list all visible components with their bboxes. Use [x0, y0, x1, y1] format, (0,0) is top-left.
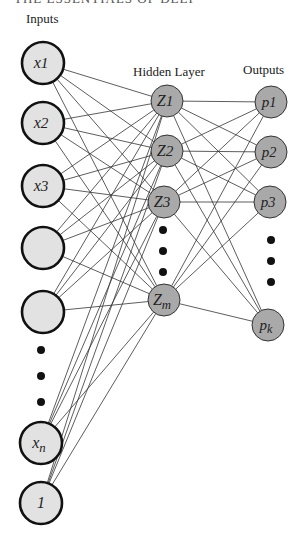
connection-edge: [64, 104, 152, 120]
hidden-node-Zm: Zm: [148, 284, 180, 316]
hidden-node-Z1: Z1: [151, 85, 183, 117]
connection-edge: [55, 312, 154, 427]
connection-edge: [60, 75, 154, 142]
ellipsis-dot-icon: [37, 372, 45, 380]
connection-edge: [59, 213, 153, 298]
node-label: x1: [33, 54, 49, 71]
connection-edge: [63, 208, 149, 241]
connection-edge: [49, 166, 160, 424]
ellipsis-dot-icon: [267, 278, 275, 286]
node-label: Z1: [157, 92, 174, 109]
ellipsis-dot-icon: [37, 398, 45, 406]
node-label: p2: [261, 144, 277, 160]
connection-edges: [47, 69, 263, 485]
output-node-p3: p3: [254, 186, 286, 218]
input-node: [22, 291, 64, 333]
ellipsis-dot-icon: [159, 247, 167, 255]
node-label: 1: [37, 494, 45, 511]
ellipsis-dot-icon: [159, 268, 167, 276]
connection-edge: [64, 302, 148, 310]
ellipsis-dot-icon: [37, 346, 45, 354]
network-svg: x1x2x3xn1Z1Z2Z3Zmp1p2p3pk: [0, 0, 301, 533]
input-node-1: 1: [20, 482, 62, 524]
node-label: x2: [33, 114, 49, 131]
hidden-node-Z2: Z2: [151, 135, 183, 167]
node-label: p3: [260, 194, 276, 210]
ellipsis-dot-icon: [267, 257, 275, 265]
ellipsis-dot-icon: [159, 226, 167, 234]
connection-edge: [174, 214, 257, 313]
node-label: Z3: [154, 193, 171, 210]
output-node-p1: p1: [255, 86, 287, 118]
connection-edge: [175, 165, 260, 311]
connection-edge: [62, 256, 149, 293]
input-node-x1: x1: [22, 42, 64, 84]
input-node: [22, 227, 64, 269]
ellipsis-dots: [37, 226, 275, 406]
connection-edge: [51, 216, 157, 424]
node-label: x3: [33, 177, 49, 194]
output-node-pk: pk: [252, 309, 284, 341]
connection-edge: [57, 113, 157, 232]
connection-edge: [173, 165, 261, 287]
connection-edge: [176, 213, 259, 289]
connection-edge: [180, 304, 253, 322]
connection-edge: [183, 101, 255, 102]
connection-edge: [48, 116, 161, 423]
ellipsis-dot-icon: [267, 236, 275, 244]
neural-network-diagram: THE ESSENTIALS OF DEEP LEARNING Inputs H…: [0, 0, 301, 533]
connection-edge: [52, 314, 156, 485]
connection-edge: [63, 69, 152, 96]
input-node-xn: xn: [20, 422, 62, 464]
node-label: Z2: [157, 142, 174, 159]
input-node-x3: x3: [22, 165, 64, 207]
hidden-node-Z3: Z3: [148, 186, 180, 218]
output-node-p2: p2: [255, 136, 287, 168]
node-label: p1: [261, 94, 277, 110]
connection-edge: [63, 155, 151, 180]
input-node-x2: x2: [22, 102, 64, 144]
connection-edge: [54, 115, 159, 294]
